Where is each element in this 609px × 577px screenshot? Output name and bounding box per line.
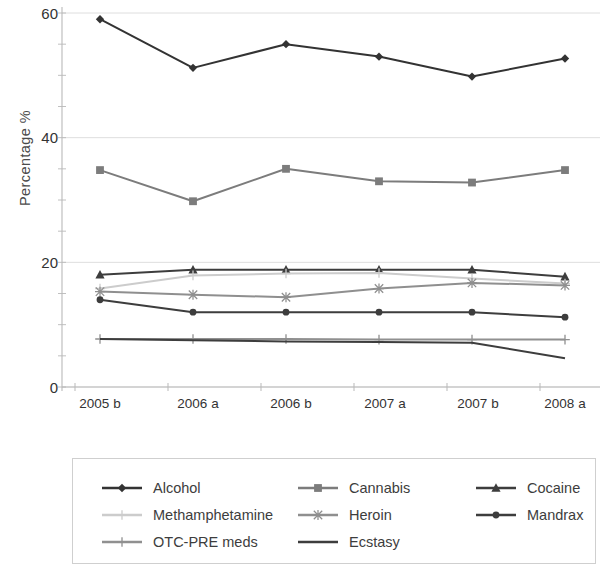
square-marker xyxy=(468,179,476,187)
circle-marker xyxy=(469,309,476,316)
legend-label: Mandrax xyxy=(527,507,583,523)
circle-marker xyxy=(97,296,104,303)
legend-label: Alcohol xyxy=(153,480,201,496)
legend-swatch xyxy=(100,535,144,549)
square-marker xyxy=(561,166,569,174)
legend-swatch xyxy=(474,481,518,495)
legend-item-ecstasy[interactable]: Ecstasy xyxy=(296,534,474,550)
star-marker xyxy=(281,292,291,302)
plus-marker xyxy=(117,510,127,520)
legend-item-cocaine[interactable]: Cocaine xyxy=(474,480,609,496)
star-marker xyxy=(95,287,105,297)
legend-item-cannabis[interactable]: Cannabis xyxy=(296,480,474,496)
legend-label: Heroin xyxy=(349,507,392,523)
series-line xyxy=(100,339,565,358)
series-line xyxy=(100,300,565,318)
series-line xyxy=(100,273,565,289)
diamond-marker xyxy=(118,483,126,491)
series-line xyxy=(100,19,565,76)
diamond-marker xyxy=(561,54,569,62)
star-marker xyxy=(467,278,477,288)
legend-entries: AlcoholCannabisCocaineMethamphetamineHer… xyxy=(100,474,600,555)
legend-label: OTC-PRE meds xyxy=(153,534,258,550)
series-cannabis xyxy=(96,165,569,205)
square-marker xyxy=(189,197,197,205)
series-alcohol xyxy=(96,15,569,81)
legend-item-otc-pre-meds[interactable]: OTC-PRE meds xyxy=(100,534,296,550)
star-marker xyxy=(374,284,384,294)
legend-label: Cocaine xyxy=(527,480,580,496)
legend-swatch xyxy=(296,508,340,522)
plot-area xyxy=(0,0,609,460)
legend-swatch xyxy=(474,508,518,522)
line-chart: Percentage % 60 40 20 0 2005 b 2006 a 20… xyxy=(0,0,609,577)
series-line xyxy=(100,169,565,201)
square-marker xyxy=(96,166,104,174)
square-marker xyxy=(375,177,383,185)
square-marker xyxy=(314,484,322,492)
plus-marker xyxy=(188,334,198,344)
legend-swatch xyxy=(100,481,144,495)
circle-marker xyxy=(493,511,500,518)
star-marker xyxy=(188,290,198,300)
legend-swatch xyxy=(296,481,340,495)
series-heroin xyxy=(95,278,570,302)
diamond-marker xyxy=(282,40,290,48)
legend-item-alcohol[interactable]: Alcohol xyxy=(100,480,296,496)
series-line xyxy=(100,283,565,297)
star-marker xyxy=(313,510,323,520)
legend-swatch xyxy=(296,535,340,549)
series-mandrax xyxy=(97,296,569,320)
diamond-marker xyxy=(468,72,476,80)
star-marker xyxy=(560,280,570,290)
plus-marker xyxy=(560,335,570,345)
legend-swatch xyxy=(100,508,144,522)
legend-item-methamphetamine[interactable]: Methamphetamine xyxy=(100,507,296,523)
plus-marker xyxy=(117,537,127,547)
circle-marker xyxy=(190,309,197,316)
circle-marker xyxy=(283,309,290,316)
circle-marker xyxy=(562,314,569,321)
legend-item-mandrax[interactable]: Mandrax xyxy=(474,507,609,523)
diamond-marker xyxy=(189,64,197,72)
diamond-marker xyxy=(375,52,383,60)
circle-marker xyxy=(376,309,383,316)
legend-item-heroin[interactable]: Heroin xyxy=(296,507,474,523)
square-marker xyxy=(282,165,290,173)
legend-label: Ecstasy xyxy=(349,534,400,550)
legend-label: Methamphetamine xyxy=(153,507,273,523)
legend-label: Cannabis xyxy=(349,480,410,496)
series-ecstasy xyxy=(100,339,565,358)
diamond-marker xyxy=(96,15,104,23)
